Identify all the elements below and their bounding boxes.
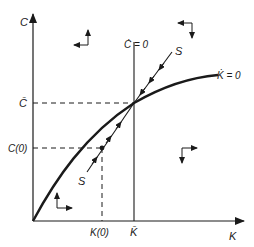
saddle-arrow-6	[116, 122, 121, 129]
saddle-arrow-2	[149, 76, 154, 83]
k-bar-label: K̄	[130, 226, 138, 238]
c0-label: C(0)	[8, 143, 27, 154]
direction-arrows-lower-left	[57, 193, 72, 208]
c-bar-label: C̄	[19, 97, 27, 109]
direction-arrows-lower-right	[182, 148, 197, 163]
k-axis-label: K	[229, 230, 237, 242]
k-dot-zero-label: K̇ = 0	[217, 69, 241, 81]
direction-arrows-upper-right	[178, 23, 192, 38]
direction-arrows-upper-left	[74, 30, 88, 45]
saddle-label-upper: S	[175, 45, 183, 57]
saddle-arrow-3	[140, 88, 145, 95]
c-dot-zero-label: Ċ = 0	[124, 39, 149, 50]
saddle-arrow-1	[159, 63, 164, 70]
saddle-arrow-4	[92, 157, 97, 164]
phase-diagram: C K Ċ = 0 K̇ = 0 S S C̄ C(0) K(0) K̄	[0, 0, 254, 247]
initial-point	[100, 146, 105, 151]
k0-label: K(0)	[90, 227, 109, 238]
saddle-arrow-5	[106, 136, 111, 143]
c-axis-label: C	[20, 16, 28, 28]
saddle-label-lower: S	[78, 175, 86, 187]
